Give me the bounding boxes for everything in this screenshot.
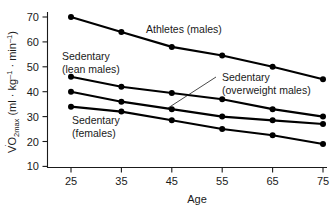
y-axis-title-sub: 2max: [12, 118, 21, 137]
y-tick-marks: [43, 17, 48, 166]
y-tick-label-70: 70: [27, 11, 39, 23]
x-tick-label-35: 35: [115, 175, 127, 187]
y-tick-labels: 70 60 50 40 30 20 10: [27, 11, 39, 172]
series-label-overweight-males-line1: Sedentary: [222, 71, 271, 83]
x-tick-marks: [71, 168, 323, 173]
data-point: [169, 90, 175, 96]
y-tick-label-60: 60: [27, 36, 39, 48]
data-point: [219, 96, 225, 102]
y-axis-title-sup1: –1: [5, 71, 14, 79]
y-tick-label-20: 20: [27, 136, 39, 148]
data-point: [320, 76, 326, 82]
x-tick-label-75: 75: [317, 175, 329, 187]
x-tick-label-65: 65: [266, 175, 278, 187]
x-axis-title: Age: [187, 193, 207, 205]
series-label-lean-males-line1: Sedentary: [62, 50, 111, 62]
vo2max-line-chart: 70 60 50 40 30 20 10 25 35 45 55 65 75: [0, 0, 335, 210]
data-point: [270, 64, 276, 70]
y-axis-title-mid: · min: [6, 43, 18, 71]
y-axis-title-sup2: –1: [5, 35, 14, 43]
data-point: [118, 29, 124, 35]
series-label-lean-males-line2: (lean males): [62, 63, 120, 75]
data-point: [270, 117, 276, 123]
data-point: [320, 114, 326, 120]
series-label-females-line2: (females): [72, 127, 116, 139]
data-point: [219, 114, 225, 120]
series-label-overweight-males-line2: (overweight males): [222, 84, 311, 96]
data-point: [219, 126, 225, 132]
svg-text:V̇O2max (ml · kg–1 · min–1): V̇O2max (ml · kg–1 · min–1): [5, 31, 21, 153]
data-point: [270, 106, 276, 112]
y-tick-label-30: 30: [27, 111, 39, 123]
y-tick-label-50: 50: [27, 61, 39, 73]
data-point: [118, 84, 124, 90]
chart-figure: 70 60 50 40 30 20 10 25 35 45 55 65 75: [0, 0, 335, 210]
x-tick-labels: 25 35 45 55 65 75: [65, 175, 329, 187]
data-point: [320, 121, 326, 127]
data-point: [219, 53, 225, 59]
x-tick-label-25: 25: [65, 175, 77, 187]
y-tick-label-10: 10: [27, 160, 39, 172]
y-tick-label-40: 40: [27, 86, 39, 98]
y-axis-title-close: ): [6, 31, 18, 35]
series-label-females-line1: Sedentary: [72, 114, 121, 126]
y-axis-title: V̇O2max (ml · kg–1 · min–1): [5, 31, 21, 153]
data-point: [68, 104, 74, 110]
data-point: [320, 141, 326, 147]
x-tick-label-45: 45: [166, 175, 178, 187]
data-point: [169, 117, 175, 123]
data-point: [68, 14, 74, 20]
data-point: [68, 89, 74, 95]
data-point: [270, 132, 276, 138]
data-point: [169, 44, 175, 50]
series-label-athletes: Athletes (males): [146, 23, 222, 35]
data-point: [118, 99, 124, 105]
x-tick-label-55: 55: [216, 175, 228, 187]
y-axis-title-units: (ml · kg: [6, 79, 18, 119]
